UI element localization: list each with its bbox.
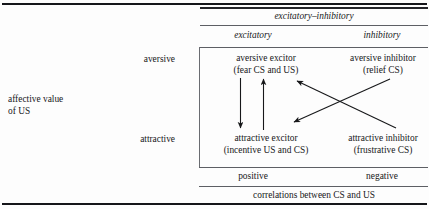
table-body-top-rule: [199, 47, 428, 48]
cell-attractive-inhibitor: attractive inhibitor (frustrative CS): [348, 132, 418, 156]
row-label-aversive: aversive: [144, 54, 175, 66]
side-label-line-1: affective value: [8, 93, 63, 105]
cell-attractive-excitor-line-2: (incentive US and CS): [224, 144, 309, 156]
side-label-affective-value: affective value of US: [8, 93, 63, 118]
figure-container: excitatory–inhibitory excitatory inhibit…: [0, 0, 429, 209]
column-heading-inhibitory: inhibitory: [364, 30, 401, 42]
cell-attractive-excitor: attractive excitor (incentive US and CS): [224, 132, 309, 156]
column-heading-top-rule: [200, 25, 428, 26]
cell-aversive-inhibitor-line-1: aversive inhibitor: [350, 52, 416, 64]
cell-aversive-excitor-line-2: (fear CS and US): [234, 64, 299, 76]
row-label-attractive: attractive: [140, 134, 175, 146]
table-body-bottom-rule: [199, 167, 428, 168]
cell-attractive-inhibitor-line-1: attractive inhibitor: [348, 132, 418, 144]
footer-caption-rule: [199, 186, 428, 187]
arrow-aversive-inhibitor-to-attractive-excitor: [294, 79, 390, 122]
footer-caption: correlations between CS and US: [253, 190, 375, 202]
cell-attractive-excitor-line-1: attractive excitor: [224, 132, 309, 144]
top-border-rule: [2, 3, 427, 5]
bottom-border-rule: [2, 203, 427, 205]
cell-attractive-inhibitor-line-2: (frustrative CS): [348, 144, 418, 156]
table-body-left-rule: [199, 47, 200, 168]
cell-aversive-inhibitor-line-2: (relief CS): [350, 64, 416, 76]
column-group-heading: excitatory–inhibitory: [274, 11, 353, 23]
column-heading-excitatory: excitatory: [234, 30, 271, 42]
side-label-line-2: of US: [8, 105, 63, 117]
cell-aversive-excitor-line-1: aversive excitor: [234, 52, 299, 64]
column-group-rule: [200, 7, 428, 9]
footer-label-positive: positive: [238, 171, 268, 183]
footer-label-negative: negative: [366, 171, 398, 183]
cell-aversive-inhibitor: aversive inhibitor (relief CS): [350, 52, 416, 76]
cell-aversive-excitor: aversive excitor (fear CS and US): [234, 52, 299, 76]
arrow-attractive-inhibitor-to-aversive-excitor: [297, 81, 396, 128]
